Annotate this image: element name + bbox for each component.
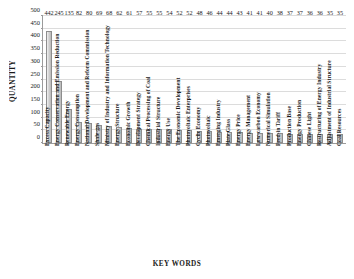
bar-value-label: 40 — [267, 9, 273, 16]
y-axis-tick-label: 200 — [30, 82, 40, 89]
bar-value-label: 41 — [257, 9, 263, 16]
category-slot: Energy Production — [295, 146, 305, 258]
bar-value-label: 68 — [106, 9, 112, 16]
bar-value-label: 46 — [206, 9, 212, 16]
y-axis-tick-label: 350 — [30, 44, 40, 51]
x-axis-category-label: Renewable Energy — [65, 100, 71, 146]
bar-value-label: 54 — [166, 9, 172, 16]
y-axis-tick-label: 50 — [34, 120, 40, 127]
x-axis-category-label: The Economic Development — [176, 78, 182, 146]
x-axis-category-label: Development Strategy — [136, 92, 142, 146]
bar-value-label: 55 — [146, 9, 152, 16]
x-axis-category-label: Energy Consumption — [75, 94, 81, 146]
category-slot: Shale-gas — [93, 146, 103, 258]
bar-value-label: 35 — [327, 9, 333, 16]
category-slot: Industrial Structure — [154, 146, 164, 258]
x-axis-title: KEY WORDS — [0, 260, 354, 268]
x-axis-category-label: Low-carbon Economy — [257, 92, 263, 146]
x-axis-category-label: Feed-in Tariff — [277, 112, 283, 146]
y-axis-tick-label: 450 — [30, 18, 40, 25]
bar-value-label: 37 — [287, 9, 293, 16]
x-axis-category-label: Industrial Structure — [156, 97, 162, 146]
x-axis-category-label: Energy Management — [246, 95, 252, 146]
x-axis-category-label: Production Base — [287, 106, 293, 146]
category-slot: Energy Conservation and Emission Reducti… — [53, 146, 63, 258]
x-axis-category-label: Numerical Simulation — [267, 92, 273, 146]
x-axis-category-label: Chemical Processing of Coal — [146, 77, 152, 146]
bar-value-label: 57 — [136, 9, 142, 16]
bar-value-label: 80 — [86, 9, 92, 16]
category-slot: Development Strategy — [134, 146, 144, 258]
category-slot: Adjustment of Industrial Structure — [325, 146, 335, 258]
bar-value-label: 38 — [277, 9, 283, 16]
category-slot: The Economic Development — [174, 146, 184, 258]
category-slot: Plate Glass — [224, 146, 234, 258]
bar-value-label: 135 — [64, 9, 73, 16]
category-slot: Energy Price — [234, 146, 244, 258]
y-axis-tick-label: 100 — [30, 107, 40, 114]
category-slot: Energy Structure — [113, 146, 123, 258]
bar-value-label: 52 — [176, 9, 182, 16]
x-axis-category-label: Energy Production — [297, 100, 303, 146]
category-slot: Chemical Processing of Coal — [144, 146, 154, 258]
y-axis-tick-label: 150 — [30, 94, 40, 101]
x-axis-category-label: Energy Price — [236, 114, 242, 146]
x-axis-category-label: Adjustment of Industrial Structure — [327, 60, 333, 146]
category-slot: Cyclic Economy — [194, 146, 204, 258]
bar-value-label: 35 — [337, 9, 343, 16]
category-slot: Restructuring of Energy Industry — [315, 146, 325, 258]
x-axis-category-label: Economic Growth — [126, 102, 132, 146]
x-axis-category-label: Restructuring of Energy Industry — [317, 64, 323, 146]
category-slot: Feed-in Tariff — [274, 146, 284, 258]
category-slot: Ministry of Industry and Information Tec… — [103, 146, 113, 258]
bar-value-label: 43 — [237, 9, 243, 16]
x-axis-category-label: Photovoltaic Enterprises — [186, 86, 192, 146]
bar-value-label: 245 — [54, 9, 63, 16]
category-slot: Low-carbon Economy — [254, 146, 264, 258]
category-slot: Energy Consumption — [73, 146, 83, 258]
bar-value-label: 62 — [116, 9, 122, 16]
bar-value-label: 82 — [76, 9, 82, 16]
y-axis-tick-label: 0 — [37, 133, 40, 140]
y-axis-tick-label: 500 — [30, 6, 40, 13]
x-axis-category-label: Shale-gas — [96, 123, 102, 146]
y-axis-tick-label: 250 — [30, 69, 40, 76]
category-slot: National Development and Reform Commissi… — [83, 146, 93, 258]
category-slot: Photovoltaic — [204, 146, 214, 258]
bar-value-label: 48 — [196, 9, 202, 16]
y-axis-title: QUANTITY — [6, 26, 20, 136]
bar-value-label: 69 — [96, 9, 102, 16]
bar-value-label: 36 — [307, 9, 313, 16]
bar-value-label: 41 — [247, 9, 253, 16]
x-axis-category-label: Cyclic Economy — [196, 107, 202, 146]
bar-value-label: 44 — [226, 9, 232, 16]
x-axis-category-label: Photovoltaic — [206, 116, 212, 146]
bar-value-label: 36 — [317, 9, 323, 16]
category-slot: Renewable Energy — [63, 146, 73, 258]
y-axis-tick-label: 400 — [30, 31, 40, 38]
bar-value-label: 44 — [216, 9, 222, 16]
y-axis-tick-label: 300 — [30, 56, 40, 63]
category-slot: Photovoltaic Enterprises — [184, 146, 194, 258]
x-axis-category-labels: Excess CapacityEnergy Conservation and E… — [42, 146, 346, 258]
bar-value-label: 61 — [126, 9, 132, 16]
x-axis-category-label: National Development and Reform Commissi… — [85, 30, 91, 146]
category-slot: Economic Growth — [124, 146, 134, 258]
x-axis-category-label: Energy Conservation and Emission Reducti… — [55, 34, 61, 146]
x-axis-category-label: Energy Structure — [116, 104, 122, 147]
category-slot: Production Base — [285, 146, 295, 258]
bar-value-label: 442 — [44, 9, 53, 16]
category-slot: Chinese Light — [305, 146, 315, 258]
x-axis-category-label: Ministry of Industry and Information Tec… — [106, 25, 112, 146]
category-slot: Energy Management — [244, 146, 254, 258]
bar-value-label: 55 — [156, 9, 162, 16]
category-slot: Numerical Simulation — [264, 146, 274, 258]
x-axis-category-label: Energy Use — [166, 118, 172, 146]
category-slot: Emerging Industry — [214, 146, 224, 258]
category-slot: Excess Capacity — [43, 146, 53, 258]
x-axis-category-label: Chinese Light — [307, 112, 313, 146]
bar-chart: QUANTITY 050100150200250300350400450500 … — [0, 0, 354, 279]
category-slot: Energy Use — [164, 146, 174, 258]
x-axis-category-label: Excess Capacity — [45, 107, 51, 146]
x-axis-category-label: Emerging Industry — [216, 99, 222, 146]
